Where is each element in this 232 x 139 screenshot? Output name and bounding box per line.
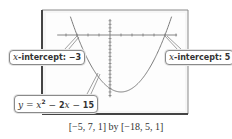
graph-plot [0,0,232,139]
right-intercept-value: 5 [225,53,231,62]
graph-figure: x-intercept: −3 x-intercept: 5 y = x2 − … [0,0,232,139]
left-intercept-callout: x-intercept: −3 [9,50,85,65]
right-intercept-text: -intercept: [174,53,225,62]
window-caption: [−5, 7, 1] by [−18, 5, 1] [0,121,232,132]
right-intercept-callout: x-intercept: 5 [165,50,232,65]
equation-minus-1: − [46,100,59,110]
left-intercept-value: −3 [69,53,81,62]
left-intercept-text: -intercept: [18,53,69,62]
equation-minus-2: − [70,100,83,110]
equation-equals: = [23,100,36,110]
equation-constant: 15 [83,101,94,110]
equation-callout: y = x2 − 2x − 15 [14,95,98,113]
